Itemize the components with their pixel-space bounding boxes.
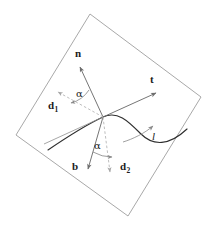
tangent-vector <box>103 93 156 117</box>
label-angle-alpha-upper: α <box>76 89 83 99</box>
geometry-diagram-svg <box>0 0 211 231</box>
label-curve-l: l <box>152 131 155 142</box>
label-binormal-vector: b <box>72 161 78 172</box>
normal-vector <box>80 67 103 117</box>
label-angle-alpha-lower: α <box>94 141 101 151</box>
label-tangent-vector: t <box>150 74 154 85</box>
label-normal-vector: n <box>75 48 81 59</box>
angle-arc-alpha-lower <box>93 152 112 157</box>
director-vector-d2 <box>103 117 110 172</box>
figure-container: n t b d1 d2 α α l <box>0 0 211 231</box>
label-director-vector-d1: d1 <box>48 100 58 111</box>
label-d1-subscript: 1 <box>54 105 58 114</box>
label-director-vector-d2: d2 <box>120 161 130 172</box>
label-d2-subscript: 2 <box>126 166 130 175</box>
